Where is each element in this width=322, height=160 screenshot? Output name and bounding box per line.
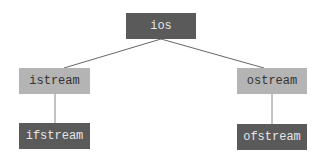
edge-ios-ostream xyxy=(161,39,264,68)
node-label: ostream xyxy=(247,74,297,88)
node-ofstream: ofstream xyxy=(237,124,307,150)
node-ostream: ostream xyxy=(237,68,307,94)
node-label: ios xyxy=(150,19,172,33)
node-label: istream xyxy=(29,74,79,88)
node-ifstream: ifstream xyxy=(19,123,90,149)
node-istream: istream xyxy=(19,68,90,94)
edge-ios-istream xyxy=(64,39,161,68)
node-ios: ios xyxy=(126,13,196,39)
node-label: ifstream xyxy=(26,129,84,143)
inheritance-diagram: ios istream ostream ifstream ofstream xyxy=(0,0,322,160)
node-label: ofstream xyxy=(243,130,301,144)
